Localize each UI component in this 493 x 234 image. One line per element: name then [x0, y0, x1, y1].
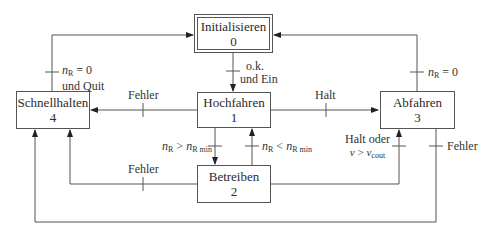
label-init-to-hoch: o.k. und Ein	[240, 60, 278, 86]
state-name: Initialisieren	[201, 19, 267, 34]
label-hoch-to-schnell: Fehler	[128, 89, 159, 102]
state-hochfahren: Hochfahren 1	[197, 92, 271, 128]
rel: = 0	[73, 63, 92, 77]
label-betr-to-abf: Halt oder v > vcout	[345, 133, 390, 162]
state-initialisieren: Initialisieren 0	[197, 17, 270, 50]
label-schnell-to-init: nR = 0 und Quit	[62, 64, 104, 93]
label-betr-to-hoch: nR < nR min	[262, 140, 312, 156]
state-number: 4	[50, 110, 57, 125]
rel: >	[173, 139, 186, 153]
state-name: Abfahren	[393, 95, 442, 110]
state-number: 3	[414, 110, 421, 125]
label-abf-to-init: nR = 0	[428, 66, 458, 82]
rel: <	[273, 139, 286, 153]
state-name: Hochfahren	[203, 95, 264, 110]
label-line2: und Quit	[62, 80, 104, 93]
label-hoch-to-betr: nR > nR min	[162, 140, 212, 156]
sub2: R min	[192, 145, 212, 154]
rel: >	[355, 146, 367, 158]
state-betreiben: Betreiben 2	[197, 165, 271, 203]
sub2: cout	[371, 151, 385, 160]
state-name: Schnellhalten	[18, 95, 89, 110]
state-abfahren: Abfahren 3	[380, 91, 455, 129]
label-abf-to-schnell: Fehler	[447, 140, 478, 153]
rel: = 0	[439, 65, 458, 79]
label-line2: und Ein	[240, 73, 278, 86]
state-name: Betreiben	[209, 169, 260, 184]
label-betr-to-schnell: Fehler	[128, 163, 159, 176]
state-number: 1	[231, 110, 238, 125]
label-line1: Halt oder	[345, 133, 390, 146]
label-hoch-to-abf: Halt	[315, 89, 336, 102]
state-number: 0	[230, 34, 237, 49]
state-schnellhalten: Schnellhalten 4	[16, 91, 90, 129]
sub2: R min	[292, 145, 312, 154]
state-number: 2	[231, 184, 238, 199]
